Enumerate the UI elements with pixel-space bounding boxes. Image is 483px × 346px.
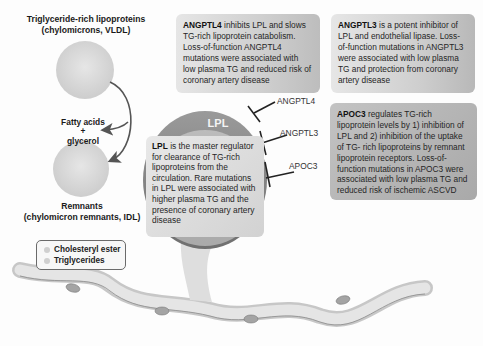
lpl-title: LPL (188, 117, 248, 129)
remnants-label-line1: Remnants (8, 201, 156, 212)
fatty-acids-label: Fatty acids + glycerol (48, 118, 118, 146)
remnant-particle (53, 141, 109, 197)
remnants-label: Remnants (chylomicron remnants, IDL) (8, 201, 156, 222)
tg-rich-lipoprotein-particle (56, 41, 114, 99)
inhibitor-label-angptl3: ANGPTL3 (280, 128, 318, 138)
lpl-description-box: LPL is the master regulator for clearanc… (146, 136, 264, 237)
legend-item-cholesteryl-ester: Cholesteryl ester (44, 245, 120, 254)
angptl4-bold: ANGPTL4 (183, 20, 222, 30)
apoc3-info-box: APOC3 regulates TG-rich lipoprotein leve… (330, 103, 477, 200)
angptl3-bold: ANGPTL3 (338, 20, 377, 30)
legend-label: Cholesteryl ester (54, 245, 120, 254)
triglycerides-dot-icon (44, 258, 50, 264)
legend-label: Triglycerides (54, 256, 105, 265)
cholesteryl-ester-dot-icon (44, 247, 50, 253)
lpl-text: is the master regulator for clearance of… (152, 141, 256, 225)
legend: Cholesteryl ester Triglycerides (36, 240, 126, 270)
tg-rich-label-line1: Triglyceride-rich lipoproteins (12, 14, 160, 25)
lpl-bold: LPL (152, 141, 168, 151)
tg-rich-lipoprotein-label: Triglyceride-rich lipoproteins (chylomic… (12, 14, 160, 35)
remnants-label-line2: (chylomicron remnants, IDL) (8, 212, 156, 223)
inhibitor-label-apoc3: APOC3 (289, 161, 317, 171)
angptl3-info-box: ANGPTL3 is a potent inhibitor of LPL and… (331, 14, 475, 93)
tg-rich-label-line2: (chylomicrons, VLDL) (12, 25, 160, 36)
apoc3-text: regulates TG-rich lipoprotein levels by … (337, 109, 467, 195)
angptl4-info-box: ANGPTL4 inhibits LPL and slows TG-rich l… (176, 14, 320, 93)
apoc3-bold: APOC3 (337, 109, 366, 119)
glycerol-text: glycerol (48, 137, 118, 146)
legend-item-triglycerides: Triglycerides (44, 256, 105, 265)
inhibitor-label-angptl4: ANGPTL4 (277, 96, 315, 106)
